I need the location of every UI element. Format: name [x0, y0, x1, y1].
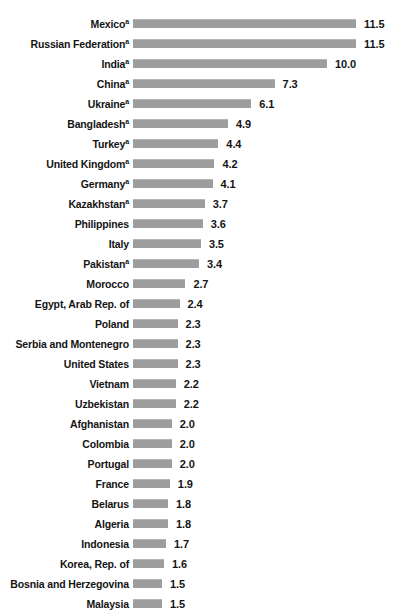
bar-row-label: United States: [0, 359, 133, 370]
country-name: Korea, Rep. of: [60, 558, 129, 570]
bar-value-label: 4.4: [226, 139, 241, 150]
bar: [133, 299, 180, 308]
bar-row: Bangladesha4.9: [0, 114, 404, 134]
bar-rows-container: Mexicoa11.5Russian Federationa11.5Indiaa…: [0, 14, 404, 614]
country-name: Algeria: [94, 518, 129, 530]
bar-track: 1.5: [133, 574, 404, 594]
country-name: United States: [64, 358, 129, 370]
country-name: Vietnam: [89, 378, 129, 390]
bar-row: Indiaa10.0: [0, 54, 404, 74]
bar-track: 2.7: [133, 274, 404, 294]
bar-track: 10.0: [133, 54, 404, 74]
bar-row: Korea, Rep. of1.6: [0, 554, 404, 574]
bar-value-label: 3.4: [207, 259, 222, 270]
bar-row-label: Turkeya: [0, 139, 133, 150]
bar-track: 1.6: [133, 554, 404, 574]
country-name: Indonesia: [81, 538, 129, 550]
footnote-marker: a: [125, 77, 129, 84]
bar: [133, 139, 218, 148]
country-name: Serbia and Montenegro: [15, 338, 129, 350]
bar-value-label: 1.8: [176, 519, 191, 530]
bar-row-label: Kazakhstana: [0, 199, 133, 210]
bar: [133, 219, 203, 228]
bar-row: Portugal2.0: [0, 454, 404, 474]
bar-row: United States2.3: [0, 354, 404, 374]
bar-row: Germanya4.1: [0, 174, 404, 194]
bar: [133, 159, 214, 168]
bar-track: 4.1: [133, 174, 404, 194]
bar-value-label: 2.2: [184, 399, 199, 410]
bar-track: 2.0: [133, 414, 404, 434]
bar-track: 2.2: [133, 394, 404, 414]
bar-row: Algeria1.8: [0, 514, 404, 534]
footnote-marker: a: [125, 37, 129, 44]
country-name: Belarus: [92, 498, 129, 510]
country-name: Afghanistan: [70, 418, 129, 430]
bar-row: Egypt, Arab Rep. of2.4: [0, 294, 404, 314]
bar-row-label: Indiaa: [0, 59, 133, 70]
country-name: Pakistan: [83, 258, 125, 270]
bar-value-label: 4.1: [221, 179, 236, 190]
bar: [133, 599, 162, 608]
bar-track: 2.2: [133, 374, 404, 394]
bar-value-label: 2.3: [186, 319, 201, 330]
bar-value-label: 2.3: [186, 339, 201, 350]
bar-track: 3.4: [133, 254, 404, 274]
footnote-marker: a: [125, 177, 129, 184]
bar-row-label: Russian Federationa: [0, 39, 133, 50]
bar-row-label: Egypt, Arab Rep. of: [0, 299, 133, 310]
bar-row: Kazakhstana3.7: [0, 194, 404, 214]
footnote-marker: a: [125, 117, 129, 124]
bar-track: 3.6: [133, 214, 404, 234]
bar-value-label: 2.2: [184, 379, 199, 390]
bar-row-label: France: [0, 479, 133, 490]
bar-row: Indonesia1.7: [0, 534, 404, 554]
bar: [133, 239, 201, 248]
bar: [133, 559, 164, 568]
bar-row-label: United Kingdoma: [0, 159, 133, 170]
footnote-marker: a: [125, 97, 129, 104]
bar-value-label: 1.5: [170, 579, 185, 590]
country-name: Bangladesh: [67, 118, 125, 130]
bar-value-label: 2.0: [180, 459, 195, 470]
footnote-marker: a: [125, 17, 129, 24]
bar-row-label: Philippines: [0, 219, 133, 230]
bar-value-label: 1.9: [178, 479, 193, 490]
bar-value-label: 1.5: [170, 599, 185, 610]
bar-value-label: 7.3: [283, 79, 298, 90]
bar-track: 4.4: [133, 134, 404, 154]
country-name: Russian Federation: [31, 38, 126, 50]
bar: [133, 179, 213, 188]
bar-value-label: 1.6: [172, 559, 187, 570]
bar: [133, 499, 168, 508]
country-name: Italy: [109, 238, 129, 250]
bar: [133, 79, 275, 88]
bar: [133, 519, 168, 528]
bar-value-label: 4.2: [222, 159, 237, 170]
bar-track: 2.3: [133, 354, 404, 374]
bar-track: 2.0: [133, 454, 404, 474]
country-name: Germany: [81, 178, 125, 190]
country-name: India: [101, 58, 125, 70]
bar-row-label: Chinaa: [0, 79, 133, 90]
bar-row: Chinaa7.3: [0, 74, 404, 94]
bar-track: 2.3: [133, 314, 404, 334]
bar: [133, 319, 178, 328]
bar-track: 3.5: [133, 234, 404, 254]
bar-row-label: Morocco: [0, 279, 133, 290]
bar: [133, 479, 170, 488]
bar-row: United Kingdoma4.2: [0, 154, 404, 174]
bar-row-label: Bosnia and Herzegovina: [0, 579, 133, 590]
bar: [133, 339, 178, 348]
bar-row: Philippines3.6: [0, 214, 404, 234]
bar: [133, 19, 356, 28]
bar-value-label: 10.0: [335, 59, 356, 70]
bar-track: 1.8: [133, 514, 404, 534]
bar-value-label: 3.7: [213, 199, 228, 210]
bar-track: 1.7: [133, 534, 404, 554]
bar-track: 11.5: [133, 34, 404, 54]
bar-row: Ukrainea6.1: [0, 94, 404, 114]
bar-row-label: Uzbekistan: [0, 399, 133, 410]
bar-row-label: Vietnam: [0, 379, 133, 390]
